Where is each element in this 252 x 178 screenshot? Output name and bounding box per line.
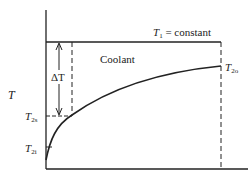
t1-constant-label: T1 = constant <box>153 26 211 40</box>
coolant-label: Coolant <box>100 53 135 65</box>
temperature-profile-diagram: T ΔT Coolant T1 = constant T2o T2s T2i <box>0 0 252 178</box>
y-axis-label: T <box>8 88 16 102</box>
delta-t-label: ΔT <box>51 71 65 83</box>
coolant-temperature-curve <box>46 66 221 160</box>
inlet-temp-label: T2i <box>25 142 37 156</box>
outlet-temp-label: T2o <box>225 61 239 75</box>
surface-temp-label: T2s <box>25 110 38 124</box>
